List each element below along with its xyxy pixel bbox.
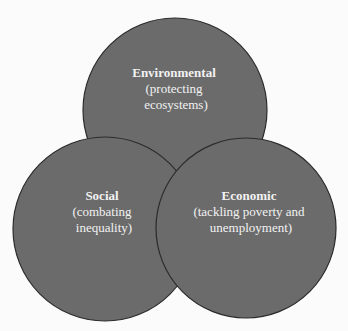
environmental-desc-line-1: (protecting <box>145 81 203 96</box>
social-desc-line-2: inequality) <box>76 220 132 235</box>
economic-desc-line-1: (tackling poverty and <box>193 204 305 219</box>
economic-title: Economic <box>222 188 277 203</box>
environmental-title: Environmental <box>132 65 216 80</box>
environmental-desc-line-2: ecosystems) <box>144 97 208 112</box>
social-title: Social <box>85 188 119 203</box>
circle-economic-group: Economic (tackling poverty and unemploym… <box>156 138 336 318</box>
social-desc-line-1: (combating <box>72 204 132 219</box>
economic-desc-line-2: unemployment) <box>210 220 292 235</box>
venn-diagram: Environmental (protecting ecosystems) So… <box>0 0 348 331</box>
